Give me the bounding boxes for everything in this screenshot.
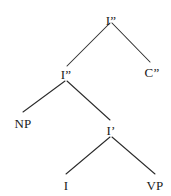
tree-edge-ibar1-to-i: [66, 137, 110, 174]
tree-node-ibar2: I”: [61, 68, 72, 81]
tree-node-root-ibar2: I”: [106, 14, 117, 27]
tree-node-cbar2: C”: [145, 66, 160, 79]
tree-edge-ibar2-to-ibar1: [67, 81, 110, 120]
tree-edge-ibar2-to-np: [23, 81, 65, 112]
tree-node-ibar1: I’: [106, 124, 115, 137]
tree-edge-root-ibar2-to-cbar2: [112, 23, 150, 62]
tree-branch-lines: [0, 0, 171, 196]
tree-edge-ibar1-to-vp: [112, 137, 155, 174]
tree-node-np: NP: [14, 117, 31, 130]
tree-edge-root-ibar2-to-ibar2: [67, 23, 110, 66]
syntax-tree-figure: I”I”C”NPI’IVP: [0, 0, 171, 196]
tree-node-i: I: [64, 179, 69, 192]
tree-node-vp: VP: [146, 179, 163, 192]
